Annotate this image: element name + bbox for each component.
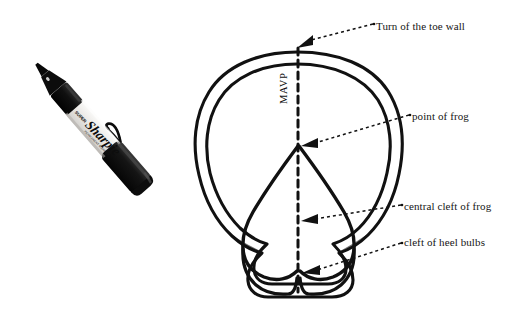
leader-line-toe-wall	[311, 24, 373, 40]
leader-dot-toe-wall	[373, 23, 376, 26]
annotation-label-mavp-axis: MAVP	[278, 73, 289, 104]
leader-dot-heel-bulbs	[401, 242, 404, 245]
frog-left-branch-path	[243, 146, 298, 279]
annotation-label-cleft-of-heel-bulbs: cleft of heel bulbs	[404, 236, 485, 249]
annotation-label-point-of-frog: point of frog	[412, 110, 469, 123]
leader-line-central-cleft	[315, 205, 401, 219]
leader-dot-point-frog	[409, 114, 412, 117]
leader-dot-central-cleft	[401, 204, 404, 207]
arrowhead-toe-wall	[297, 35, 313, 48]
annotation-label-central-cleft-of-frog: central cleft of frog	[404, 200, 491, 213]
hoof-anatomy-figure: SUPER Sharpie PERMANENT MARKER	[0, 0, 531, 311]
leader-line-point-frog	[315, 115, 409, 143]
left-collateral-groove-path	[232, 236, 262, 253]
arrowhead-central-cleft	[301, 214, 318, 224]
hoof-diagram-drawing	[0, 0, 531, 311]
arrowhead-point-frog	[301, 138, 318, 148]
annotation-label-toe-wall: Turn of the toe wall	[376, 20, 465, 33]
leader-line-heel-bulbs	[317, 243, 401, 270]
